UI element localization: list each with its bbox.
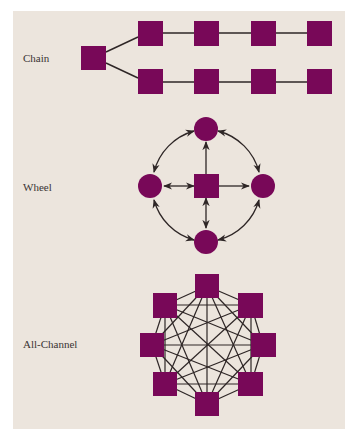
chain-node [307, 69, 332, 94]
chain-node [194, 21, 219, 46]
all-channel-node [251, 333, 276, 357]
wheel-nodes [138, 117, 275, 254]
chain-node [138, 21, 163, 46]
chain-root-node [81, 46, 106, 70]
all-channel-node [140, 333, 164, 357]
network-diagrams [0, 0, 356, 440]
wheel-center-node [194, 174, 219, 198]
chain-node [251, 21, 276, 46]
chain-nodes [81, 21, 332, 94]
chain-node [194, 69, 219, 94]
all-channel-node [195, 392, 219, 416]
all-channel-node [238, 293, 263, 318]
wheel-outer-node [194, 230, 218, 254]
wheel-outer-node [251, 174, 275, 198]
chain-network [81, 21, 332, 94]
chain-node [138, 69, 163, 94]
chain-node [251, 69, 276, 94]
chain-node [307, 21, 332, 46]
all-channel-network [140, 274, 276, 416]
all-channel-node [238, 372, 263, 396]
all-channel-node [153, 293, 177, 318]
wheel-outer-node [194, 117, 218, 141]
wheel-network [138, 117, 275, 254]
all-channel-node [153, 372, 177, 396]
all-channel-node [195, 274, 219, 298]
wheel-outer-node [138, 174, 162, 198]
